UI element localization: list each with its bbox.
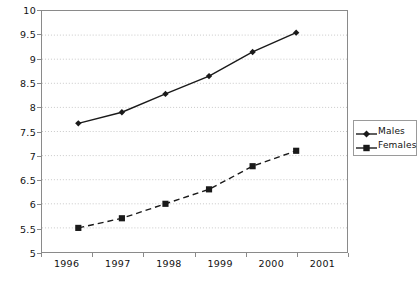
series-layer bbox=[42, 11, 347, 252]
y-axis-labels: 10 9.5 9 8.5 8 7.5 7 6.5 6 5.5 5 bbox=[0, 10, 36, 253]
x-axis-tick bbox=[246, 253, 247, 257]
data-point-females bbox=[119, 215, 125, 221]
data-point-females bbox=[250, 163, 256, 169]
data-point-males bbox=[249, 49, 255, 55]
x-axis-label: 1997 bbox=[105, 258, 130, 269]
x-axis-label: 1998 bbox=[156, 258, 181, 269]
legend: Males Females bbox=[353, 120, 417, 156]
x-axis-tick bbox=[297, 253, 298, 257]
y-axis-label: 6 bbox=[30, 199, 36, 210]
x-axis-tick bbox=[92, 253, 93, 257]
data-point-females bbox=[293, 148, 299, 154]
data-point-males bbox=[162, 91, 168, 97]
x-axis-tick bbox=[348, 253, 349, 257]
legend-label-females: Females bbox=[378, 140, 417, 150]
y-axis-label: 5 bbox=[30, 248, 36, 259]
y-axis-label: 8 bbox=[30, 102, 36, 113]
legend-item-females: Females bbox=[356, 138, 413, 152]
y-axis-label: 8.5 bbox=[20, 77, 36, 88]
y-axis-label: 7.5 bbox=[20, 126, 36, 137]
series-females bbox=[75, 148, 299, 231]
y-axis-label: 9 bbox=[30, 53, 36, 64]
x-axis-label: 1996 bbox=[54, 258, 79, 269]
y-axis-label: 6.5 bbox=[20, 175, 36, 186]
x-axis-tick bbox=[195, 253, 196, 257]
x-axis-label: 2001 bbox=[310, 258, 335, 269]
y-axis-label: 9.5 bbox=[20, 29, 36, 40]
data-point-males bbox=[293, 30, 299, 36]
x-axis-tick bbox=[41, 253, 42, 257]
plot-area bbox=[41, 10, 348, 253]
legend-label-males: Males bbox=[378, 126, 405, 136]
y-axis-label: 10 bbox=[23, 5, 36, 16]
y-axis-label: 5.5 bbox=[20, 223, 36, 234]
data-point-females bbox=[206, 186, 212, 192]
x-axis-label: 1999 bbox=[207, 258, 232, 269]
data-point-males bbox=[75, 120, 81, 126]
data-point-males bbox=[119, 109, 125, 115]
square-marker-icon bbox=[356, 139, 377, 151]
data-point-females bbox=[162, 201, 168, 207]
line-chart: 10 9.5 9 8.5 8 7.5 7 6.5 6 5.5 5 bbox=[0, 0, 419, 282]
x-axis-labels: 1996 1997 1998 1999 2000 2001 bbox=[41, 258, 348, 276]
y-axis-label: 7 bbox=[30, 150, 36, 161]
x-axis-label: 2000 bbox=[259, 258, 284, 269]
data-point-females bbox=[75, 225, 81, 231]
legend-item-males: Males bbox=[356, 124, 413, 138]
diamond-marker-icon bbox=[356, 125, 377, 137]
x-axis-tick bbox=[143, 253, 144, 257]
series-males bbox=[75, 30, 299, 127]
data-point-males bbox=[206, 73, 212, 79]
